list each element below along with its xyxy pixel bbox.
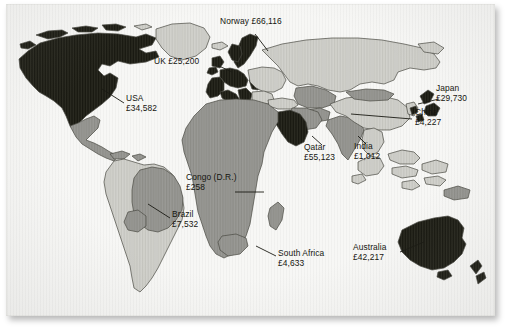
map-label-japan: Japan £29,730: [436, 84, 467, 103]
map-card: Norway £66,116 UK £25,200 USA £34,582 Ja…: [6, 4, 495, 316]
map-label-norway: Norway £66,116: [220, 17, 282, 27]
map-label-india: India £1,012: [354, 142, 380, 161]
map-label-brazil: Brazil £7,532: [172, 210, 198, 229]
map-label-australia-value: £42,217: [353, 253, 386, 263]
map-label-australia: Australia £42,217: [353, 243, 386, 262]
map-label-usa: USA £34,582: [126, 94, 157, 113]
map-label-south-africa: South Africa £4,633: [278, 249, 324, 268]
map-label-uk-text: UK £25,200: [154, 56, 199, 66]
map-label-china-value: £4,227: [415, 118, 441, 128]
map-label-japan-value: £29,730: [436, 94, 467, 104]
map-label-congo-value: £258: [186, 183, 237, 193]
map-label-qatar: Qatar £55,123: [304, 143, 335, 162]
map-label-india-value: £1,012: [354, 152, 380, 162]
world-map-graphic: [6, 4, 495, 316]
map-label-uk: UK £25,200: [154, 57, 199, 67]
map-label-norway-text: Norway £66,116: [220, 16, 282, 26]
world-map-figure: Norway £66,116 UK £25,200 USA £34,582 Ja…: [0, 0, 507, 328]
map-label-congo: Congo (D.R.) £258: [186, 173, 237, 192]
map-label-brazil-value: £7,532: [172, 220, 198, 230]
map-label-usa-value: £34,582: [126, 104, 157, 114]
region-bolivia: [124, 210, 146, 232]
map-label-south-africa-value: £4,633: [278, 259, 324, 269]
map-label-qatar-value: £55,123: [304, 153, 335, 163]
map-label-china: China £4,227: [415, 108, 441, 127]
